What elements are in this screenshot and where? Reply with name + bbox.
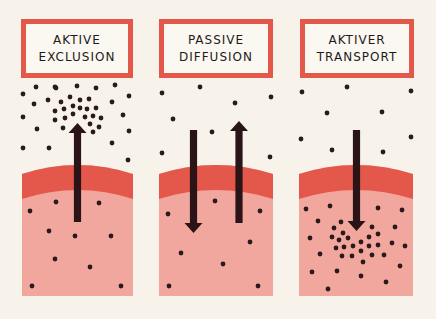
label-line-2: EXCLUSION	[39, 49, 116, 66]
particle-dot	[166, 212, 171, 217]
particle-dot	[119, 284, 124, 289]
particle-dot	[233, 101, 238, 106]
membrane-transport-diagram: AKTIVE EXCLUSION PASSIVE DIFFUSION AKTIV…	[0, 0, 436, 319]
particle-dot	[99, 116, 104, 121]
particle-dot	[109, 234, 114, 239]
particle-dot	[335, 269, 340, 274]
label-line-1: AKTIVE	[53, 32, 101, 49]
particle-dot	[34, 85, 39, 90]
particle-dot	[198, 85, 203, 90]
particle-dot	[376, 206, 381, 211]
particle-dot	[53, 109, 58, 114]
particle-dot	[179, 251, 184, 256]
particle-dot	[21, 146, 26, 151]
particle-dot	[381, 150, 386, 155]
particle-dot	[94, 86, 99, 91]
particle-dot	[326, 287, 331, 292]
label-line-2: DIFFUSION	[179, 49, 253, 66]
particle-dot	[87, 97, 92, 102]
particle-dot	[390, 241, 395, 246]
particle-dot	[268, 155, 273, 160]
particle-dot	[21, 115, 26, 120]
particle-dot	[310, 270, 315, 275]
particle-dot	[269, 95, 274, 100]
label-aktive-exclusion: AKTIVE EXCLUSION	[21, 19, 133, 78]
particle-dot	[330, 235, 335, 240]
particle-dot	[68, 95, 73, 100]
particle-dot	[78, 98, 83, 103]
particle-dot	[171, 117, 176, 122]
particle-dot	[53, 118, 58, 123]
particle-dot	[325, 111, 330, 116]
particle-dot	[328, 204, 333, 209]
particle-dot	[127, 94, 132, 99]
particle-dot	[71, 104, 76, 109]
particle-dot	[345, 85, 350, 90]
particle-dot	[359, 249, 364, 254]
particle-dot	[384, 280, 389, 285]
particle-dot	[316, 219, 321, 224]
particle-dot	[409, 135, 414, 140]
particle-dot	[21, 92, 26, 97]
particle-dot	[59, 100, 64, 105]
particle-dot	[73, 234, 78, 239]
particle-dot	[221, 262, 226, 267]
particle-dot	[53, 257, 58, 262]
particle-dot	[83, 115, 88, 120]
particle-dot	[361, 260, 366, 265]
particle-dot	[47, 146, 52, 151]
particle-dot	[340, 254, 345, 259]
particle-dot	[330, 148, 335, 153]
particle-dot	[30, 284, 35, 289]
particle-dot	[97, 125, 102, 130]
particle-dot	[376, 232, 381, 237]
particle-dot	[370, 253, 375, 258]
particle-dot	[62, 107, 67, 112]
particle-dot	[359, 240, 364, 245]
particle-dot	[299, 137, 304, 142]
particle-dot	[94, 106, 99, 111]
particle-dot	[318, 252, 323, 257]
particle-dot	[75, 84, 80, 89]
particle-dot	[91, 130, 96, 135]
particle-dot	[35, 127, 40, 132]
particle-dot	[110, 100, 115, 105]
label-passive-diffusion: PASSIVE DIFFUSION	[159, 19, 273, 78]
particle-dot	[380, 110, 385, 115]
particle-dot	[409, 89, 414, 94]
particle-dot	[213, 199, 218, 204]
particle-dot	[61, 126, 66, 131]
particle-dot	[403, 244, 408, 249]
particle-dot	[350, 254, 355, 259]
particle-dot	[127, 129, 132, 134]
label-line-1: PASSIVE	[188, 32, 244, 49]
particle-dot	[78, 106, 83, 111]
particle-dot	[370, 225, 375, 230]
particle-dot	[88, 265, 93, 270]
particle-dot	[71, 112, 76, 117]
particle-dot	[308, 236, 313, 241]
particle-dot	[339, 220, 344, 225]
particle-dot	[63, 116, 68, 121]
particle-dot	[258, 209, 263, 214]
particle-dot	[210, 130, 215, 135]
particle-dot	[126, 158, 131, 163]
particle-dot	[113, 83, 118, 88]
particle-dot	[400, 208, 405, 213]
particle-dot	[54, 200, 59, 205]
particle-dot	[28, 209, 33, 214]
label-line-1: AKTIVER	[328, 32, 385, 49]
particle-dot	[256, 284, 261, 289]
particle-dot	[46, 98, 51, 103]
particle-dot	[160, 151, 165, 156]
particle-dot	[110, 141, 115, 146]
particle-dot	[334, 246, 339, 251]
particle-dot	[346, 236, 351, 241]
particle-dot	[393, 225, 398, 230]
particle-dot	[359, 274, 364, 279]
particle-dot	[97, 201, 102, 206]
particle-dot	[248, 240, 253, 245]
particle-dot	[47, 229, 52, 234]
particle-dot	[88, 122, 93, 127]
particle-dot	[342, 245, 347, 250]
